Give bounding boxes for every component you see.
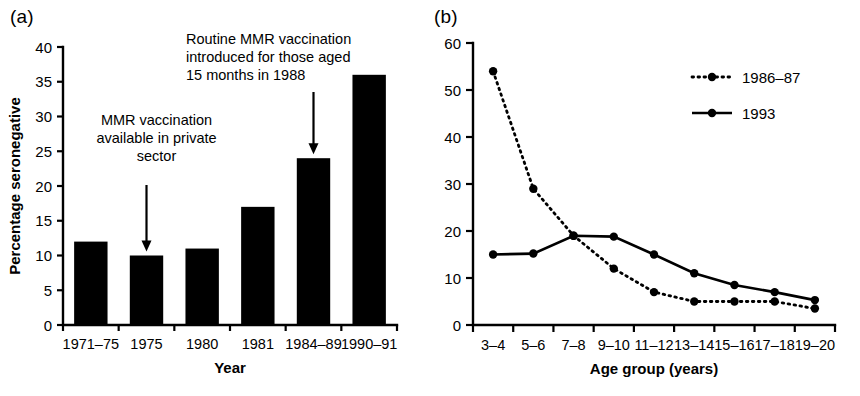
legend-label-text: 1993 bbox=[742, 105, 775, 122]
data-point-1986-87[interactable] bbox=[730, 297, 738, 305]
x-axis-title: Year bbox=[214, 359, 246, 376]
annotation-line: sector bbox=[137, 148, 177, 164]
x-category-label: 11–12 bbox=[634, 337, 673, 353]
panel-b: (b) 01020304050603–45–67–89–1011–1213–14… bbox=[430, 0, 860, 396]
y-tick-label: 10 bbox=[444, 270, 461, 287]
bar-chart-svg: 05101520253035401971–751975198019811984–… bbox=[0, 0, 430, 396]
y-tick-label: 60 bbox=[444, 35, 461, 52]
data-point-1993[interactable] bbox=[569, 232, 577, 240]
x-category-label: 1980 bbox=[186, 336, 218, 352]
x-category-label: 1971–75 bbox=[63, 336, 119, 352]
legend-marker bbox=[708, 73, 716, 81]
bar[interactable] bbox=[297, 158, 330, 325]
axis-lines bbox=[63, 47, 397, 325]
x-category-label: 1984–89 bbox=[285, 336, 341, 352]
x-category-label: 9–10 bbox=[598, 337, 630, 353]
x-category-label: 1990–91 bbox=[341, 336, 397, 352]
bar[interactable] bbox=[130, 256, 163, 326]
data-point-1993[interactable] bbox=[650, 250, 658, 258]
data-point-1993[interactable] bbox=[529, 249, 537, 257]
annotation-line: Routine MMR vaccination bbox=[186, 31, 351, 47]
data-point-1986-87[interactable] bbox=[811, 304, 819, 312]
y-tick-label: 30 bbox=[35, 108, 52, 125]
legend-1986-87[interactable]: 1986–87 bbox=[692, 69, 800, 86]
arrow-head bbox=[309, 143, 319, 154]
y-tick-label: 5 bbox=[44, 282, 52, 299]
x-category-label: 1975 bbox=[130, 336, 162, 352]
arrow-head bbox=[142, 241, 152, 252]
y-tick-label: 40 bbox=[444, 129, 461, 146]
x-category-label: 1981 bbox=[242, 336, 274, 352]
figure-container: (a) 05101520253035401971–751975198019811… bbox=[0, 0, 860, 396]
data-point-1993[interactable] bbox=[811, 296, 819, 304]
data-point-1986-87[interactable] bbox=[610, 264, 618, 272]
x-category-label: 5–6 bbox=[521, 337, 545, 353]
y-tick-label: 10 bbox=[35, 247, 52, 264]
data-point-1986-87[interactable] bbox=[529, 185, 537, 193]
legend-1993[interactable]: 1993 bbox=[692, 105, 775, 122]
y-axis-title: Percentage seronegative bbox=[6, 97, 23, 275]
data-point-1993[interactable] bbox=[770, 288, 778, 296]
panel-a: (a) 05101520253035401971–751975198019811… bbox=[0, 0, 430, 396]
data-point-1993[interactable] bbox=[730, 281, 738, 289]
bar[interactable] bbox=[352, 75, 385, 325]
x-category-label: 19–20 bbox=[795, 337, 835, 353]
x-category-label: 3–4 bbox=[481, 337, 505, 353]
bar[interactable] bbox=[241, 207, 274, 325]
x-category-label: 13–14 bbox=[674, 337, 714, 353]
data-point-1986-87[interactable] bbox=[489, 67, 497, 75]
y-tick-label: 30 bbox=[444, 176, 461, 193]
annotation-line: 15 months in 1988 bbox=[186, 67, 305, 83]
annotation-line: introduced for those aged bbox=[186, 49, 350, 65]
data-point-1993[interactable] bbox=[489, 250, 497, 258]
x-category-label: 7–8 bbox=[561, 337, 585, 353]
data-point-1993[interactable] bbox=[690, 269, 698, 277]
x-category-label: 17–18 bbox=[755, 337, 795, 353]
y-tick-label: 25 bbox=[35, 143, 52, 160]
bar[interactable] bbox=[185, 249, 218, 325]
private-sector-arrow bbox=[142, 185, 152, 252]
annotation-line: available in private bbox=[96, 130, 216, 146]
data-point-1993[interactable] bbox=[610, 232, 618, 240]
y-tick-label: 35 bbox=[35, 73, 52, 90]
x-axis-title: Age group (years) bbox=[590, 360, 718, 377]
line-chart-svg: 01020304050603–45–67–89–1011–1213–1415–1… bbox=[430, 0, 860, 396]
y-tick-label: 0 bbox=[44, 317, 52, 334]
y-tick-label: 20 bbox=[35, 178, 52, 195]
y-tick-label: 40 bbox=[35, 39, 52, 56]
routine-vaccination-arrow bbox=[309, 92, 319, 154]
data-point-1986-87[interactable] bbox=[770, 297, 778, 305]
bar[interactable] bbox=[74, 242, 107, 325]
y-tick-label: 50 bbox=[444, 82, 461, 99]
data-point-1986-87[interactable] bbox=[650, 288, 658, 296]
y-tick-label: 0 bbox=[453, 317, 461, 334]
y-tick-label: 20 bbox=[444, 223, 461, 240]
y-tick-label: 15 bbox=[35, 212, 52, 229]
x-category-label: 15–16 bbox=[714, 337, 754, 353]
annotation-line: MMR vaccination bbox=[101, 112, 212, 128]
data-point-1986-87[interactable] bbox=[690, 297, 698, 305]
legend-marker bbox=[708, 109, 716, 117]
legend-label-text: 1986–87 bbox=[742, 69, 800, 86]
